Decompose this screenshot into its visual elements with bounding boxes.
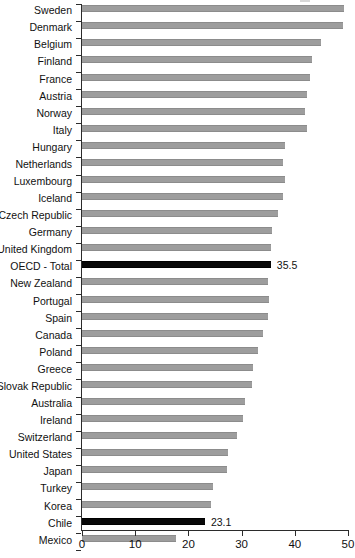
category-label-ireland: Ireland xyxy=(40,415,72,425)
bar-row: New Zealand xyxy=(0,278,355,295)
y-tick xyxy=(76,277,81,278)
bar-row: Korea xyxy=(0,501,355,518)
bar-row: Australia xyxy=(0,398,355,415)
y-tick xyxy=(76,140,81,141)
category-label-united-kingdom: United Kingdom xyxy=(0,244,72,254)
category-label-switzerland: Switzerland xyxy=(18,432,72,442)
y-tick xyxy=(76,175,81,176)
category-label-iceland: Iceland xyxy=(38,193,72,203)
bar-germany xyxy=(82,227,272,234)
y-tick xyxy=(76,21,81,22)
x-tick xyxy=(188,531,189,536)
y-tick xyxy=(76,38,81,39)
bar-luxembourg xyxy=(82,176,285,183)
bar-row: United Kingdom xyxy=(0,244,355,261)
bar-row: Sweden xyxy=(0,5,355,22)
category-label-hungary: Hungary xyxy=(32,142,72,152)
bar-oecd-total xyxy=(82,261,271,268)
x-tick xyxy=(135,531,136,536)
bar-austria xyxy=(82,91,307,98)
bar-row: Mexico xyxy=(0,535,355,552)
cropped-title-remnant xyxy=(300,0,310,2)
y-tick xyxy=(76,431,81,432)
x-tick xyxy=(242,531,243,536)
bar-netherlands xyxy=(82,159,283,166)
bar-sweden xyxy=(82,5,344,12)
y-tick xyxy=(76,192,81,193)
category-label-portugal: Portugal xyxy=(33,296,72,306)
y-tick xyxy=(76,260,81,261)
x-tick-label: 20 xyxy=(182,538,195,550)
category-label-mexico: Mexico xyxy=(39,535,72,545)
y-tick xyxy=(76,311,81,312)
bar-row: Norway xyxy=(0,108,355,125)
bar-row: Slovak Republic xyxy=(0,381,355,398)
y-tick xyxy=(76,362,81,363)
bar-italy xyxy=(82,125,307,132)
category-label-denmark: Denmark xyxy=(29,22,72,32)
x-tick-label: 10 xyxy=(129,538,142,550)
y-tick xyxy=(76,55,81,56)
category-label-italy: Italy xyxy=(53,125,72,135)
bar-greece xyxy=(82,364,253,371)
category-label-canada: Canada xyxy=(35,330,72,340)
bar-row: Spain xyxy=(0,313,355,330)
y-tick xyxy=(76,157,81,158)
bar-row: Greece xyxy=(0,364,355,381)
y-tick xyxy=(76,106,81,107)
bar-value-label: 35.5 xyxy=(277,260,297,270)
bar-row: Turkey xyxy=(0,483,355,500)
bar-value-label: 23.1 xyxy=(211,517,231,527)
x-tick-label: 30 xyxy=(235,538,248,550)
x-tick-label: 40 xyxy=(288,538,301,550)
bar-row: France xyxy=(0,74,355,91)
y-tick xyxy=(76,448,81,449)
y-tick xyxy=(76,516,81,517)
bar-united-states xyxy=(82,449,228,456)
y-tick xyxy=(76,226,81,227)
bar-iceland xyxy=(82,193,283,200)
y-tick xyxy=(76,379,81,380)
bar-row: Canada xyxy=(0,330,355,347)
bar-belgium xyxy=(82,39,321,46)
category-label-spain: Spain xyxy=(45,313,72,323)
bar-row: Italy xyxy=(0,125,355,142)
bar-hungary xyxy=(82,142,285,149)
category-label-australia: Australia xyxy=(31,398,72,408)
y-tick xyxy=(76,72,81,73)
y-tick xyxy=(76,294,81,295)
bar-row: Austria xyxy=(0,91,355,108)
category-label-greece: Greece xyxy=(38,364,72,374)
bar-row: Denmark xyxy=(0,22,355,39)
y-tick xyxy=(76,533,81,534)
x-tick xyxy=(82,531,83,536)
y-tick xyxy=(76,465,81,466)
bar-finland xyxy=(82,56,312,63)
bar-row: Portugal xyxy=(0,296,355,313)
bar-new-zealand xyxy=(82,278,268,285)
category-label-turkey: Turkey xyxy=(40,483,72,493)
category-label-luxembourg: Luxembourg xyxy=(14,176,72,186)
bar-row: Poland xyxy=(0,347,355,364)
x-tick-label: 0 xyxy=(79,538,85,550)
bar-row: Netherlands xyxy=(0,159,355,176)
category-label-slovak-republic: Slovak Republic xyxy=(0,381,72,391)
bar-row: Switzerland xyxy=(0,432,355,449)
x-tick xyxy=(348,531,349,536)
bar-slovak-republic xyxy=(82,381,252,388)
bar-czech-republic xyxy=(82,210,278,217)
category-label-oecd-total: OECD - Total xyxy=(10,261,72,271)
bar-united-kingdom xyxy=(82,244,271,251)
bar-japan xyxy=(82,466,227,473)
bar-row: OECD - Total35.5 xyxy=(0,261,355,278)
x-tick-label: 50 xyxy=(342,538,355,550)
category-label-belgium: Belgium xyxy=(34,39,72,49)
category-label-austria: Austria xyxy=(39,91,72,101)
bar-ireland xyxy=(82,415,243,422)
y-tick xyxy=(76,397,81,398)
category-label-japan: Japan xyxy=(43,466,72,476)
category-label-finland: Finland xyxy=(38,56,72,66)
bar-row: Japan xyxy=(0,466,355,483)
bar-korea xyxy=(82,501,211,508)
category-label-sweden: Sweden xyxy=(34,5,72,15)
